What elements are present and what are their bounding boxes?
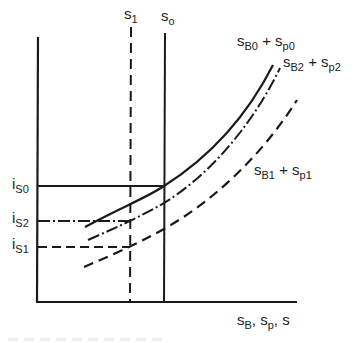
- curve-sB2-sp2-label: sB2 + sp2: [283, 54, 341, 73]
- iS0-label: iS0: [12, 176, 29, 195]
- y-axis: [37, 37, 38, 302]
- s0-vertical-solid: [164, 33, 165, 302]
- curve-sB2-sp2: [88, 68, 280, 240]
- s1-label: s1: [124, 6, 138, 25]
- s1-vertical-dashed: [130, 27, 131, 302]
- iS2-label: iS2: [12, 210, 29, 229]
- curve-sB0-sp0: [85, 65, 273, 227]
- x-axis-label: sB, sp, s: [237, 312, 290, 331]
- s0-label: so: [161, 8, 175, 27]
- caption-remnant: [8, 338, 168, 341]
- iS1-label: iS1: [12, 236, 29, 255]
- curve-sB0-sp0-label: sB0 + sp0: [237, 33, 295, 52]
- curve-sB1-sp1-label: sB1 + sp1: [254, 162, 312, 181]
- curve-sB1-sp1: [84, 100, 297, 267]
